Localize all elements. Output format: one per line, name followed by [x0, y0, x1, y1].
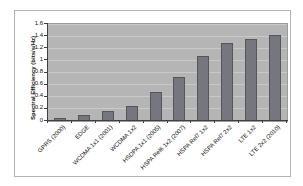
- bar: [245, 39, 257, 121]
- chart-screenshot: Spectral Efficiency (bits/s/Hz) 00.20.40…: [0, 0, 303, 186]
- y-tick-label: 1.2: [31, 44, 43, 51]
- x-axis-line: [47, 120, 288, 121]
- chart-frame: Spectral Efficiency (bits/s/Hz) 00.20.40…: [14, 10, 291, 177]
- y-tick-label: 0: [31, 117, 43, 124]
- x-category-label: GPRS (2000): [36, 124, 66, 154]
- bar: [126, 106, 138, 121]
- y-tick-label: 0.6: [31, 80, 43, 87]
- gridline: [48, 24, 287, 25]
- bar: [221, 43, 233, 121]
- gridline: [48, 36, 287, 37]
- bar: [269, 35, 281, 121]
- bar: [197, 56, 209, 121]
- y-tick-label: 1: [31, 56, 43, 63]
- y-axis-line: [47, 23, 48, 121]
- y-tick-label: 1.6: [31, 20, 43, 27]
- y-tick-label: 0.2: [31, 104, 43, 111]
- x-category-label: LTE 1x2: [238, 124, 258, 144]
- y-tick-label: 0.8: [31, 68, 43, 75]
- bar: [150, 92, 162, 121]
- y-tick-label: 0.4: [31, 92, 43, 99]
- bar: [173, 77, 185, 121]
- x-category-label: EDGE: [74, 124, 91, 141]
- plot-area: [47, 23, 288, 122]
- y-tick-label: 1.4: [31, 32, 43, 39]
